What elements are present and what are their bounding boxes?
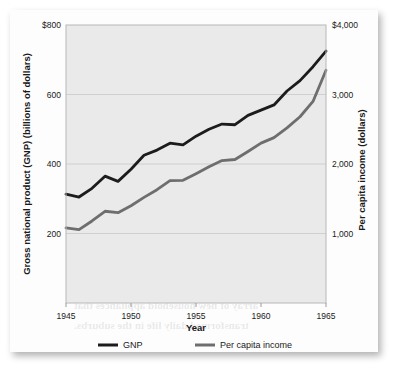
x-axis-tick-label: 1950	[122, 311, 141, 321]
chart-legend: GNPPer capita income	[98, 340, 292, 350]
y-axis-tick-label: 400	[47, 159, 61, 169]
x-axis-tick-label: 1945	[57, 311, 76, 321]
y2-axis-tick-label: 2,000	[332, 159, 354, 169]
x-axis-tick-label: 1965	[317, 311, 336, 321]
x-axis-tick-label: 1955	[187, 311, 206, 321]
figure-card: Constitution, and the Election of 1952.E…	[10, 10, 378, 352]
y-axis-title: Gross national product (GNP) (billions o…	[21, 53, 32, 275]
x-axis-tick-marks	[66, 303, 326, 307]
gnp-per-capita-line-chart: 200400600$800 1,0002,0003,000$4,000 1945…	[10, 10, 378, 352]
x-axis-tick-labels: 19451950195519601965	[57, 311, 336, 321]
x-axis-title: Year	[186, 322, 206, 333]
y2-axis-tick-labels: 1,0002,0003,000$4,000	[332, 20, 358, 239]
y-axis-tick-label: $800	[42, 20, 61, 30]
y2-axis-tick-label: 1,000	[332, 229, 354, 239]
y2-axis-title: Per capita income (dollars)	[356, 109, 367, 230]
y2-axis-tick-label: $4,000	[332, 20, 358, 30]
legend-label-gnp: GNP	[123, 340, 143, 350]
y-axis-tick-label: 200	[47, 229, 61, 239]
y-axis-tick-label: 600	[47, 90, 61, 100]
y-axis-tick-labels: 200400600$800	[42, 20, 61, 239]
x-axis-tick-label: 1960	[252, 311, 271, 321]
y2-axis-tick-label: 3,000	[332, 90, 354, 100]
legend-label-per-capita-income: Per capita income	[220, 340, 292, 350]
